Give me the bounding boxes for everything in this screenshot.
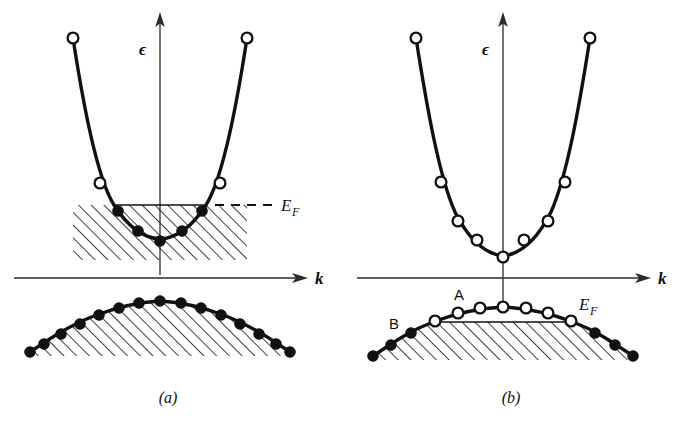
state-marker-filled <box>386 340 396 350</box>
state-marker-filled <box>114 303 124 313</box>
state-marker-filled <box>75 319 85 329</box>
momentum-axis-b: k <box>357 269 667 288</box>
energy-axis-label-b: ϵ <box>482 40 490 59</box>
state-marker-filled <box>196 303 206 313</box>
state-marker-empty <box>519 235 530 246</box>
energy-axis-label-a: ϵ <box>139 40 147 59</box>
momentum-axis-label-b: k <box>658 269 667 288</box>
state-marker-empty <box>436 177 447 188</box>
state-marker-empty <box>521 303 532 314</box>
state-marker-empty <box>560 177 571 188</box>
fermi-level-subscript-a: F <box>291 205 300 219</box>
band-structure-figure: ϵ k E F <box>0 0 686 422</box>
state-marker-empty <box>242 33 253 44</box>
state-marker-empty <box>498 302 509 313</box>
panel-caption-b: (b) <box>502 389 521 407</box>
state-marker-filled <box>235 319 245 329</box>
state-marker-empty <box>566 316 577 327</box>
annotation-a-label-group: A <box>454 286 464 303</box>
state-marker-empty <box>68 33 79 44</box>
state-marker-filled <box>216 310 226 320</box>
state-marker-filled <box>628 351 638 361</box>
momentum-axis-a: k <box>14 269 324 288</box>
state-marker-filled <box>406 328 416 338</box>
conduction-band-occupied-region-a <box>70 205 250 260</box>
panel-caption-a: (a) <box>159 389 178 407</box>
state-marker-filled <box>113 206 123 216</box>
state-marker-filled <box>197 206 207 216</box>
state-marker-empty <box>543 308 554 319</box>
state-marker-empty <box>543 216 554 227</box>
state-marker-filled <box>155 236 165 246</box>
valence-band-a <box>25 296 295 357</box>
state-marker-filled <box>133 226 143 236</box>
state-marker-filled <box>94 310 104 320</box>
state-marker-empty <box>453 216 464 227</box>
state-marker-empty <box>498 252 509 263</box>
state-marker-empty <box>215 178 226 189</box>
valence-band-b <box>368 302 638 362</box>
fermi-level-b: E F <box>578 295 598 318</box>
state-marker-filled <box>271 339 281 349</box>
state-marker-empty <box>585 33 596 44</box>
state-marker-filled <box>134 298 144 308</box>
state-marker-filled <box>368 351 378 361</box>
annotation-b-label-group: B <box>389 315 399 332</box>
state-marker-empty <box>453 308 464 319</box>
state-marker-filled <box>590 328 600 338</box>
state-marker-filled <box>39 339 49 349</box>
state-marker-empty <box>411 33 422 44</box>
fermi-level-label-a: E <box>280 196 292 215</box>
panel-b: ϵ k <box>343 0 686 422</box>
state-marker-filled <box>56 329 66 339</box>
state-marker-filled <box>177 226 187 236</box>
state-marker-filled <box>610 340 620 350</box>
state-marker-empty <box>472 235 483 246</box>
state-marker-filled <box>176 298 186 308</box>
annotation-label-B: B <box>389 315 399 332</box>
fermi-level-label-b: E <box>578 295 590 314</box>
state-marker-filled <box>25 347 35 357</box>
state-marker-empty <box>430 316 441 327</box>
state-marker-empty <box>95 178 106 189</box>
state-marker-filled <box>155 296 165 306</box>
fermi-level-subscript-b: F <box>589 304 598 318</box>
state-marker-filled <box>254 329 264 339</box>
momentum-axis-label-a: k <box>315 269 324 288</box>
annotation-label-A: A <box>454 286 464 303</box>
state-marker-filled <box>285 347 295 357</box>
state-marker-empty <box>475 303 486 314</box>
panel-a: ϵ k E F <box>0 0 343 422</box>
